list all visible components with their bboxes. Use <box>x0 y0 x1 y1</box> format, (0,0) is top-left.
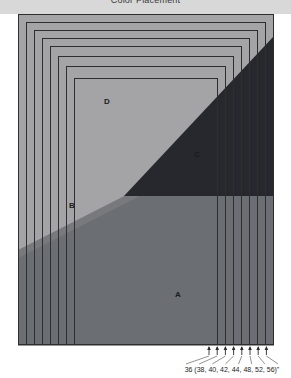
region-label-b: B <box>69 201 75 210</box>
tick-leader-line <box>225 356 233 364</box>
tick-arrow-head <box>215 346 219 350</box>
tick-leader-line <box>186 356 209 364</box>
tick-leader-line <box>258 356 265 364</box>
region-label-c: C <box>194 150 200 159</box>
figure-canvas: Color Placement <box>0 0 291 378</box>
tick-arrow-head <box>265 346 269 350</box>
plate-bottom-edge <box>18 344 274 346</box>
tick-leader-line <box>250 356 252 364</box>
axis-annotation-label: 36 (38, 40, 42, 44, 48, 52, 56)" <box>185 366 280 374</box>
region-label-a: A <box>175 290 181 299</box>
tick-arrow-head <box>248 346 252 350</box>
tick-arrow-head <box>256 346 260 350</box>
region-label-d: D <box>104 97 110 106</box>
color-placement-figure: D C B A 36 (38, 40, 42, 44, 48, 52, 56)" <box>0 0 291 378</box>
tick-leader-line <box>266 356 278 364</box>
plate-fills <box>18 14 274 345</box>
tick-arrow-head <box>240 346 244 350</box>
tick-leader-line <box>239 356 242 364</box>
tick-arrow-head <box>232 346 236 350</box>
axis-tick-arrows <box>186 346 278 364</box>
tick-arrow-head <box>207 346 211 350</box>
tick-arrow-head <box>224 346 228 350</box>
